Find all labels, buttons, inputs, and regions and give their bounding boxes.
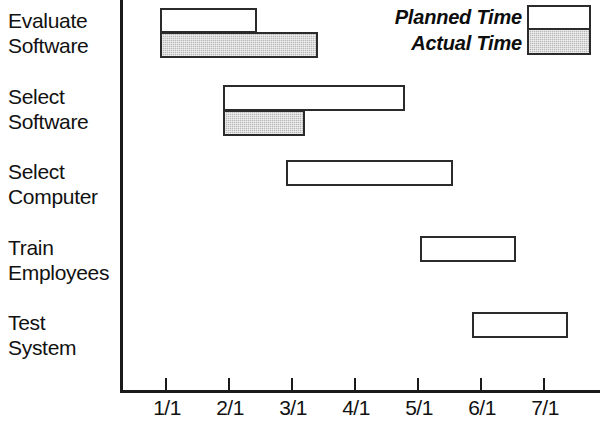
legend-label-planned-time: Planned Time <box>390 4 522 30</box>
x-axis-tick <box>228 378 230 391</box>
legend-label-actual-time: Actual Time <box>390 30 522 56</box>
x-axis-tick-label: 6/1 <box>452 396 512 420</box>
row-label-line1: Evaluate <box>8 8 120 33</box>
row-label-select-software: Select Software <box>8 84 120 134</box>
row-label-evaluate-software: Evaluate Software <box>8 8 120 58</box>
row-label-line2: Employees <box>8 260 120 285</box>
legend-swatch-actual <box>529 30 589 53</box>
legend-swatch-planned <box>529 7 589 30</box>
y-axis-line <box>120 0 123 393</box>
row-label-test-system: Test System <box>8 310 120 360</box>
row-label-train-employees: Train Employees <box>8 235 120 285</box>
row-label-line1: Train <box>8 235 120 260</box>
x-axis-tick <box>480 378 482 391</box>
planned-bar-select-software <box>223 85 405 111</box>
row-label-line1: Test <box>8 310 120 335</box>
legend-swatch <box>527 5 591 55</box>
x-axis-tick-label: 7/1 <box>515 396 575 420</box>
actual-bar-select-software <box>223 110 305 136</box>
planned-bar-evaluate-software <box>160 8 257 33</box>
x-axis-tick <box>291 378 293 391</box>
gantt-chart: Evaluate Software Select Software Select… <box>0 0 605 430</box>
x-axis-tick-label: 3/1 <box>263 396 323 420</box>
x-axis-tick-label: 1/1 <box>137 396 197 420</box>
x-axis-tick-label: 4/1 <box>326 396 386 420</box>
row-label-line2: Software <box>8 109 120 134</box>
row-label-line1: Select <box>8 159 120 184</box>
planned-bar-train-employees <box>420 236 516 262</box>
actual-bar-evaluate-software <box>160 32 318 58</box>
row-label-line1: Select <box>8 84 120 109</box>
chart-legend: Planned Time Actual Time <box>390 4 595 58</box>
legend-labels: Planned Time Actual Time <box>390 4 522 56</box>
x-axis-tick <box>354 378 356 391</box>
x-axis-line <box>120 390 600 393</box>
row-label-line2: Software <box>8 33 120 58</box>
planned-bar-test-system <box>472 312 568 338</box>
planned-bar-select-computer <box>286 160 453 186</box>
row-label-select-computer: Select Computer <box>8 159 120 209</box>
x-axis-tick-label: 2/1 <box>200 396 260 420</box>
x-axis-tick-label: 5/1 <box>389 396 449 420</box>
x-axis-tick <box>543 378 545 391</box>
x-axis-tick <box>165 378 167 391</box>
x-axis-tick <box>417 378 419 391</box>
row-label-line2: Computer <box>8 184 120 209</box>
row-label-line2: System <box>8 335 120 360</box>
